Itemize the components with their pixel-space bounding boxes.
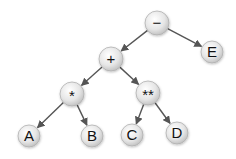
- tree-node-minus: −: [145, 11, 169, 35]
- nodes-layer: −E+***ABCD: [18, 11, 223, 147]
- node-label: C: [127, 126, 138, 143]
- edge-arrow-plus-star: [82, 67, 102, 85]
- tree-node-C: C: [121, 124, 143, 146]
- node-label: −: [153, 14, 162, 31]
- edge-arrow-star-A: [38, 102, 64, 127]
- edge-arrow-star-B: [77, 105, 87, 125]
- tree-node-B: B: [81, 125, 103, 147]
- edge-arrow-minus-E: [168, 29, 202, 47]
- tree-node-E: E: [201, 41, 223, 63]
- tree-node-pow: **: [136, 81, 160, 105]
- tree-node-star: *: [60, 82, 84, 106]
- edge-arrow-plus-pow: [120, 67, 139, 84]
- node-label: E: [207, 43, 217, 60]
- tree-node-A: A: [18, 125, 40, 147]
- edge-arrow-pow-C: [136, 104, 143, 124]
- node-label: +: [107, 50, 116, 67]
- tree-node-plus: +: [99, 47, 123, 71]
- edge-arrow-minus-plus: [121, 30, 147, 51]
- node-label: *: [69, 87, 75, 104]
- node-label: B: [87, 127, 97, 144]
- edge-arrow-pow-D: [155, 103, 170, 124]
- node-label: A: [24, 127, 34, 144]
- expression-tree-diagram: −E+***ABCD: [0, 0, 236, 159]
- node-label: **: [142, 86, 154, 103]
- tree-node-D: D: [166, 122, 188, 144]
- edges-layer: [38, 29, 202, 128]
- node-label: D: [172, 124, 183, 141]
